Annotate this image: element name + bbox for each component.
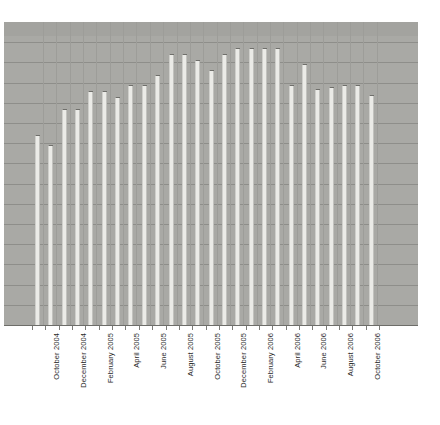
bar: [329, 87, 334, 325]
x-axis-label: February 2005: [106, 333, 115, 383]
vertical-gridline: [56, 22, 57, 325]
axis-tick: [72, 326, 73, 330]
vertical-gridline: [123, 22, 124, 325]
gridline: [4, 62, 418, 63]
x-axis-label: October 2006: [373, 333, 382, 380]
bar: [302, 64, 307, 325]
bar-chart: October 2004December 2004February 2005Ap…: [0, 0, 440, 425]
axis-tick: [299, 326, 300, 330]
bar: [222, 54, 227, 325]
vertical-gridline: [96, 22, 97, 325]
vertical-gridline: [43, 22, 44, 325]
bar: [235, 48, 240, 325]
bar: [182, 54, 187, 325]
bar: [35, 135, 40, 325]
x-axis-label: April 2006: [293, 333, 302, 368]
bar: [88, 91, 93, 325]
bar: [62, 109, 67, 325]
x-axis-label: October 2005: [213, 333, 222, 380]
axis-tick: [32, 326, 33, 330]
axis-tick: [219, 326, 220, 330]
bar: [342, 85, 347, 325]
bar: [128, 85, 133, 325]
axis-tick: [179, 326, 180, 330]
bar: [369, 95, 374, 325]
axis-tick: [326, 326, 327, 330]
axis-tick: [259, 326, 260, 330]
vertical-gridline: [70, 22, 71, 325]
axis-tick: [125, 326, 126, 330]
axis-tick: [85, 326, 86, 330]
axis-tick: [45, 326, 46, 330]
x-axis-label: June 2005: [159, 333, 168, 369]
axis-tick: [206, 326, 207, 330]
bar: [249, 48, 254, 325]
axis-tick: [339, 326, 340, 330]
x-axis-label: April 2005: [132, 333, 141, 368]
vertical-gridline: [217, 22, 218, 325]
plot-area: [4, 22, 418, 325]
bar: [289, 85, 294, 325]
vertical-gridline: [283, 22, 284, 325]
vertical-gridline: [377, 22, 378, 325]
axis-tick: [352, 326, 353, 330]
axis-tick: [112, 326, 113, 330]
axis-tick: [152, 326, 153, 330]
vertical-gridline: [230, 22, 231, 325]
axis-tick: [379, 326, 380, 330]
vertical-gridline: [177, 22, 178, 325]
x-axis-label: June 2006: [319, 333, 328, 369]
x-axis-label: December 2004: [79, 333, 88, 388]
vertical-gridline: [337, 22, 338, 325]
vertical-gridline: [110, 22, 111, 325]
x-axis-label: December 2005: [239, 333, 248, 388]
bar: [275, 48, 280, 325]
bar: [102, 91, 107, 325]
vertical-gridline: [270, 22, 271, 325]
axis-tick: [59, 326, 60, 330]
vertical-gridline: [363, 22, 364, 325]
bar: [48, 145, 53, 325]
bar: [155, 75, 160, 325]
vertical-gridline: [350, 22, 351, 325]
vertical-gridline: [323, 22, 324, 325]
vertical-gridline: [310, 22, 311, 325]
vertical-gridline: [190, 22, 191, 325]
x-axis-label: August 2006: [346, 333, 355, 376]
axis-tick: [232, 326, 233, 330]
bar: [315, 89, 320, 325]
vertical-gridline: [203, 22, 204, 325]
bar: [195, 60, 200, 325]
vertical-gridline: [83, 22, 84, 325]
vertical-gridline: [150, 22, 151, 325]
x-axis-label: August 2005: [186, 333, 195, 376]
bar: [209, 70, 214, 325]
vertical-gridline: [163, 22, 164, 325]
axis-tick: [312, 326, 313, 330]
axis-tick: [192, 326, 193, 330]
plot-top-band: [4, 22, 418, 36]
bar: [142, 85, 147, 325]
x-axis-label: October 2004: [52, 333, 61, 380]
axis-tick: [166, 326, 167, 330]
bar: [355, 85, 360, 325]
vertical-gridline: [257, 22, 258, 325]
axis-tick: [272, 326, 273, 330]
vertical-gridline: [297, 22, 298, 325]
axis-tick: [139, 326, 140, 330]
bar: [169, 54, 174, 325]
vertical-gridline: [243, 22, 244, 325]
bar: [115, 97, 120, 325]
axis-tick: [99, 326, 100, 330]
axis-tick: [286, 326, 287, 330]
vertical-gridline: [136, 22, 137, 325]
axis-tick: [246, 326, 247, 330]
x-axis-line: [4, 325, 418, 326]
bar: [262, 48, 267, 325]
axis-tick: [366, 326, 367, 330]
x-axis-label: February 2006: [266, 333, 275, 383]
gridline: [4, 42, 418, 43]
bar: [75, 109, 80, 325]
